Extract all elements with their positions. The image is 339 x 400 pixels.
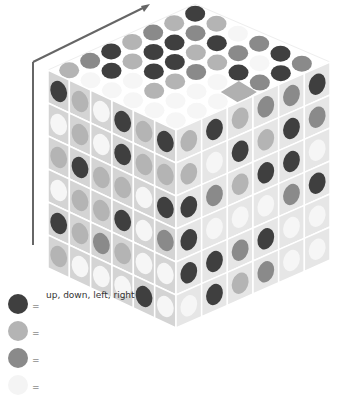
legend-row-white: = [8,373,208,400]
dot-icon [186,25,206,41]
arrowhead-icon [141,4,150,12]
dot-icon [187,103,207,119]
dot-icon [165,35,185,51]
dot-icon [80,53,100,69]
dot-icon [165,54,185,70]
dot-icon [292,56,312,72]
dot-icon [101,43,121,59]
dot-icon [186,64,206,80]
dot-icon [123,73,143,89]
dot-icon [186,45,206,61]
dot-icon [185,6,205,22]
dot-icon [144,63,164,79]
legend-equals: = [32,301,40,311]
dot-icon [165,73,185,89]
dot-icon [144,44,164,60]
dot-icon [207,55,227,71]
dot-icon [123,53,143,69]
dot-icon [250,55,270,71]
dot-icon [250,75,270,91]
dot-icon [144,83,164,99]
dot-icon [228,26,248,42]
dot-icon [143,25,163,41]
dot-icon [207,16,227,32]
dot-icon [228,45,248,61]
legend-row-dark: = up, down, left, right [8,292,208,319]
legend-equals: = [32,355,40,365]
dot-icon [271,46,291,62]
white-dot-icon [8,375,28,395]
dot-icon [187,83,207,99]
dot-icon [249,36,269,52]
dot-icon [229,65,249,81]
dot-icon [166,93,186,109]
legend-row-light: = [8,319,208,346]
dot-icon [208,74,228,90]
dot-icon [208,93,228,109]
mid-dot-icon [8,348,28,368]
legend-equals: = [32,382,40,392]
legend: = up, down, left, right = = = [8,292,208,400]
dot-icon [207,35,227,51]
dot-icon [164,15,184,31]
legend-row-mid: = [8,346,208,373]
dot-icon [102,63,122,79]
dark-dot-icon [8,294,28,314]
dot-icon [122,34,142,50]
light-dot-icon [8,321,28,341]
legend-label: up, down, left, right [46,290,135,300]
legend-equals: = [32,328,40,338]
dot-icon [271,65,291,81]
